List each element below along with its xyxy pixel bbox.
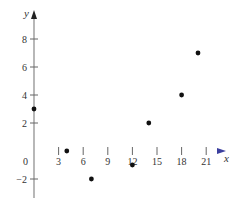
data-point xyxy=(146,121,151,126)
data-point xyxy=(89,177,94,182)
y-tick-label: −2 xyxy=(16,174,27,185)
y-tick-label: 8 xyxy=(22,34,27,45)
data-point xyxy=(130,163,135,168)
y-tick-label: 4 xyxy=(22,90,27,101)
data-point xyxy=(179,93,184,98)
y-tick-label: 6 xyxy=(22,62,27,73)
x-tick-label: 9 xyxy=(105,156,110,167)
x-tick-label: 6 xyxy=(81,156,86,167)
x-tick-label: 21 xyxy=(201,156,211,167)
x-axis-label: x xyxy=(223,152,229,164)
y-tick-label: 2 xyxy=(22,118,27,129)
data-point xyxy=(32,107,37,112)
x-tick-label: 3 xyxy=(56,156,61,167)
origin-label: 0 xyxy=(23,156,28,167)
x-tick-label: 18 xyxy=(177,156,187,167)
y-axis-label: y xyxy=(23,7,29,19)
x-tick-label: 15 xyxy=(152,156,162,167)
y-axis-arrow-icon xyxy=(31,10,37,19)
data-point xyxy=(196,51,201,56)
data-point xyxy=(64,149,69,154)
scatter-plot: xy36912151821−224680 xyxy=(0,0,238,204)
